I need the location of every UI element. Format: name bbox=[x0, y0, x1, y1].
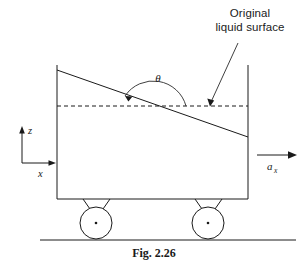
axis-z-arrowhead bbox=[19, 126, 25, 134]
wheel-rear-strut-left bbox=[195, 199, 202, 209]
figure-caption: Fig. 2.26 bbox=[132, 246, 176, 260]
wheel-rear-strut-right bbox=[215, 199, 222, 209]
acceleration-arrowhead bbox=[288, 151, 297, 159]
wheel-rear-hub-dot bbox=[207, 222, 210, 225]
axis-z-label: z bbox=[27, 125, 32, 136]
callout-label-line2: liquid surface bbox=[215, 21, 284, 33]
acceleration-subscript: x bbox=[273, 166, 278, 175]
wheel-front-hub-dot bbox=[95, 222, 98, 225]
acceleration-label: a bbox=[267, 160, 273, 172]
figure-container: θ z x a x Original liquid surface bbox=[0, 0, 308, 267]
callout-label-line1: Original bbox=[230, 7, 270, 19]
tank-interior bbox=[57, 65, 248, 199]
wheel-front-strut-left bbox=[83, 199, 90, 209]
angle-theta-label: θ bbox=[155, 72, 161, 84]
axis-x-arrowhead bbox=[49, 160, 57, 166]
wheel-front-strut-right bbox=[103, 199, 110, 209]
axis-x-label: x bbox=[37, 168, 43, 179]
tank-acceleration-diagram: θ z x a x Original liquid surface bbox=[0, 0, 308, 267]
